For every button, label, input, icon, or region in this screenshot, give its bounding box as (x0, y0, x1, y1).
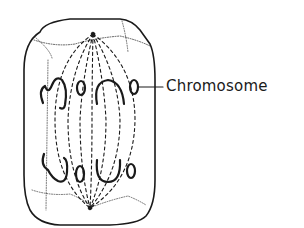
spindle-pole-top (91, 32, 95, 36)
cell-side-edge (46, 60, 48, 210)
chromosome (130, 80, 138, 94)
upper-chromosomes (41, 78, 138, 108)
cell-diagram (0, 0, 304, 228)
chromosome (127, 164, 135, 178)
lower-chromosomes (43, 154, 135, 182)
chromosome (76, 166, 84, 182)
cell-wall (24, 19, 155, 225)
spindle-fibers (55, 34, 135, 208)
chromosome (41, 78, 66, 108)
spindle-pole-bottom (88, 206, 92, 210)
chromosome-label: Chromosome (166, 77, 268, 95)
chromosome (96, 80, 124, 104)
chromosome (77, 81, 85, 95)
cell-top-edge (34, 36, 150, 46)
